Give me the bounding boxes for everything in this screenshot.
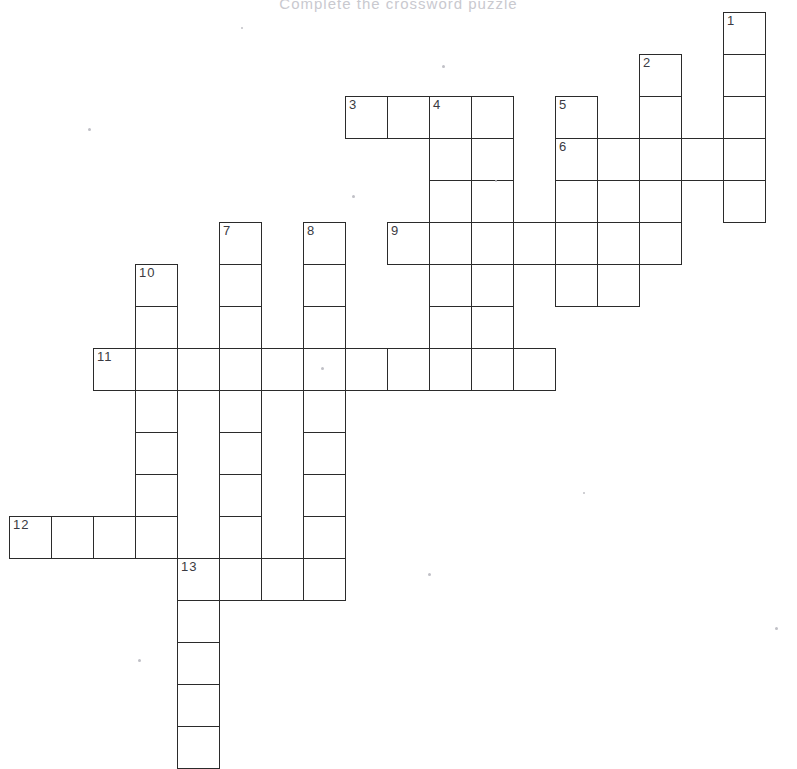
- crossword-cell-numbered-3[interactable]: 3: [345, 96, 388, 139]
- cell-number-8: 8: [307, 224, 315, 237]
- scan-speck: [442, 65, 445, 68]
- crossword-cell[interactable]: [177, 684, 220, 727]
- crossword-cell[interactable]: [177, 600, 220, 643]
- cell-number-5: 5: [559, 98, 567, 111]
- cell-number-13: 13: [181, 560, 197, 573]
- crossword-cell[interactable]: [639, 96, 682, 139]
- crossword-cell[interactable]: [219, 390, 262, 433]
- crossword-cell[interactable]: [219, 516, 262, 559]
- crossword-cell[interactable]: [219, 264, 262, 307]
- crossword-cell[interactable]: [639, 222, 682, 265]
- crossword-cell[interactable]: [429, 180, 472, 223]
- cell-number-3: 3: [349, 98, 357, 111]
- crossword-cell[interactable]: [261, 348, 304, 391]
- crossword-cell[interactable]: [597, 264, 640, 307]
- crossword-cell[interactable]: [219, 348, 262, 391]
- crossword-cell[interactable]: [345, 348, 388, 391]
- crossword-cell[interactable]: [639, 180, 682, 223]
- crossword-cell[interactable]: [597, 138, 640, 181]
- crossword-cell[interactable]: [471, 306, 514, 349]
- crossword-cell[interactable]: [387, 348, 430, 391]
- crossword-cell[interactable]: [135, 432, 178, 475]
- crossword-cell[interactable]: [681, 138, 724, 181]
- crossword-cell[interactable]: [135, 306, 178, 349]
- crossword-cell-numbered-9[interactable]: 9: [387, 222, 430, 265]
- crossword-cell[interactable]: [303, 558, 346, 601]
- crossword-cell[interactable]: [471, 222, 514, 265]
- crossword-cell[interactable]: [513, 348, 556, 391]
- crossword-cell[interactable]: [303, 516, 346, 559]
- crossword-cell[interactable]: [555, 222, 598, 265]
- crossword-cell[interactable]: [219, 558, 262, 601]
- crossword-cell[interactable]: [639, 138, 682, 181]
- crossword-cell[interactable]: [429, 264, 472, 307]
- crossword-cell[interactable]: [723, 180, 766, 223]
- crossword-cell-numbered-6[interactable]: 6: [555, 138, 598, 181]
- cell-number-6: 6: [559, 140, 567, 153]
- crossword-cell[interactable]: [135, 516, 178, 559]
- crossword-cell[interactable]: [471, 96, 514, 139]
- scan-speck: [138, 659, 141, 662]
- crossword-cell-numbered-10[interactable]: 10: [135, 264, 178, 307]
- crossword-cell[interactable]: [429, 138, 472, 181]
- scan-speck: [352, 195, 355, 198]
- scan-speck: [583, 492, 585, 494]
- crossword-cell[interactable]: [429, 222, 472, 265]
- crossword-cell-numbered-12[interactable]: 12: [9, 516, 52, 559]
- crossword-cell[interactable]: [555, 264, 598, 307]
- crossword-cell-numbered-1[interactable]: 1: [723, 12, 766, 55]
- crossword-cell[interactable]: [219, 306, 262, 349]
- scan-speck: [241, 27, 243, 29]
- crossword-cell[interactable]: [303, 348, 346, 391]
- crossword-cell[interactable]: [303, 474, 346, 517]
- crossword-cell[interactable]: [135, 390, 178, 433]
- crossword-cell[interactable]: [723, 138, 766, 181]
- cell-number-11: 11: [97, 350, 113, 363]
- crossword-cell[interactable]: [471, 180, 514, 223]
- crossword-cell[interactable]: [93, 516, 136, 559]
- cell-number-1: 1: [727, 14, 735, 27]
- crossword-cell[interactable]: [723, 96, 766, 139]
- crossword-cell[interactable]: [513, 222, 556, 265]
- crossword-cell[interactable]: [387, 96, 430, 139]
- crossword-cell-numbered-13[interactable]: 13: [177, 558, 220, 601]
- cell-number-7: 7: [223, 224, 231, 237]
- crossword-cell-numbered-4[interactable]: 4: [429, 96, 472, 139]
- cell-number-4: 4: [433, 98, 441, 111]
- crossword-cell[interactable]: [303, 432, 346, 475]
- cell-number-9: 9: [391, 224, 399, 237]
- cell-number-10: 10: [139, 266, 155, 279]
- crossword-cell-numbered-8[interactable]: 8: [303, 222, 346, 265]
- crossword-cell[interactable]: [597, 222, 640, 265]
- crossword-cell[interactable]: [303, 306, 346, 349]
- crossword-cell[interactable]: [303, 390, 346, 433]
- cell-number-12: 12: [13, 518, 29, 531]
- crossword-cell[interactable]: [135, 474, 178, 517]
- crossword-cell-numbered-11[interactable]: 11: [93, 348, 136, 391]
- crossword-cell[interactable]: [471, 138, 514, 181]
- crossword-cell[interactable]: [303, 264, 346, 307]
- crossword-cell[interactable]: [177, 642, 220, 685]
- crossword-cell[interactable]: [219, 474, 262, 517]
- crossword-cell[interactable]: [177, 726, 220, 769]
- crossword-cell[interactable]: [177, 348, 220, 391]
- scan-speck: [88, 128, 91, 131]
- crossword-cell[interactable]: [723, 54, 766, 97]
- crossword-cell[interactable]: [219, 432, 262, 475]
- crossword-cell[interactable]: [471, 264, 514, 307]
- crossword-cell-numbered-5[interactable]: 5: [555, 96, 598, 139]
- crossword-cell-numbered-7[interactable]: 7: [219, 222, 262, 265]
- crossword-cell-numbered-2[interactable]: 2: [639, 54, 682, 97]
- crossword-cell[interactable]: [555, 180, 598, 223]
- scan-speck: [428, 573, 431, 576]
- cell-number-2: 2: [643, 56, 651, 69]
- crossword-cell[interactable]: [51, 516, 94, 559]
- crossword-cell[interactable]: [597, 180, 640, 223]
- crossword-cell[interactable]: [429, 306, 472, 349]
- crossword-cell[interactable]: [135, 348, 178, 391]
- crossword-cell[interactable]: [471, 348, 514, 391]
- scan-speck: [775, 627, 778, 630]
- crossword-cell[interactable]: [261, 558, 304, 601]
- crossword-cell[interactable]: [429, 348, 472, 391]
